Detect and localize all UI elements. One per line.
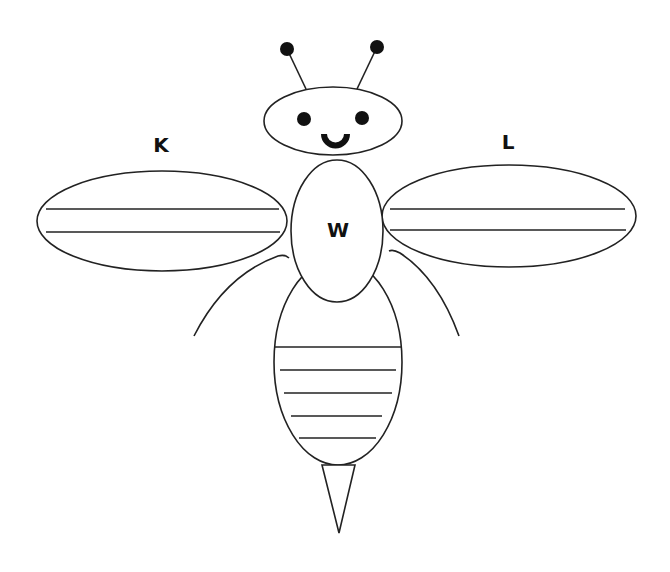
label-k: K [153,133,170,157]
stinger [322,465,355,533]
left-eye [297,112,311,126]
right-leg [389,250,459,336]
left-antenna-tip [280,42,294,56]
right-eye [355,111,369,125]
left-wing [37,171,287,271]
bee-diagram: K L W [0,0,670,572]
left-wing-shape [37,171,287,271]
right-wing-shape [382,165,636,267]
right-antenna-tip [370,40,384,54]
head [264,87,402,155]
antennae [280,40,384,89]
right-wing [382,165,636,267]
label-l: L [502,130,515,154]
label-w: W [327,218,349,242]
